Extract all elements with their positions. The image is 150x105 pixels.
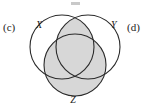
set-label-y: Y: [111, 19, 118, 30]
set-label-x: X: [35, 19, 43, 30]
venn-figure: (c) (d) X Y Z: [0, 0, 150, 105]
venn-diagram-graphic: X Y Z: [0, 0, 150, 105]
set-label-z: Z: [70, 94, 76, 105]
